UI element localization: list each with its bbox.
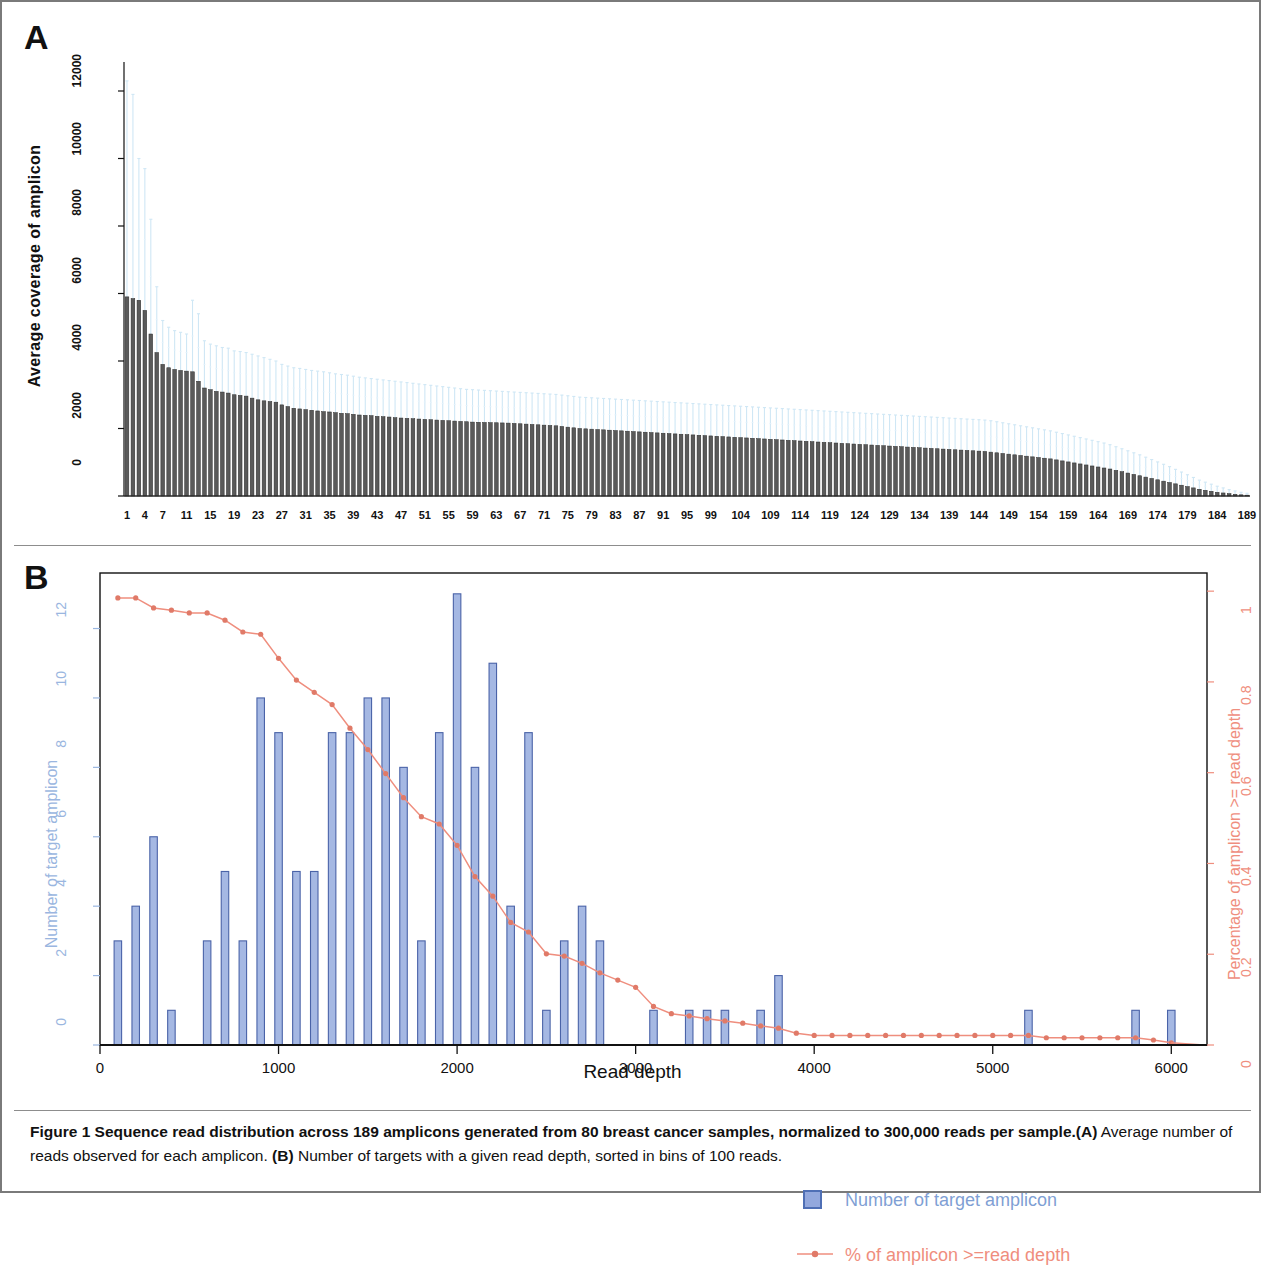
panel-a-y-tick: 2000 (70, 392, 84, 462)
panel-b-right-y-tick: 1 (1238, 564, 1254, 614)
panel-a-y-tick: 0 (70, 459, 84, 529)
panel-b-left-y-tick: 8 (53, 740, 69, 790)
panel-b-left-y-tick: 4 (53, 879, 69, 929)
panel-a-y-tick: 6000 (70, 257, 84, 327)
panel-b-left-y-tick: 6 (53, 810, 69, 860)
caption-title: Figure 1 Sequence read distribution acro… (30, 1123, 1076, 1140)
panel-b-bars (114, 594, 1175, 1045)
panel-a: A Average coverage of amplicon 020004000… (2, 2, 1261, 545)
panel-b-right-y-tick: 0.2 (1238, 927, 1254, 977)
caption-b-text: Number of targets with a given read dept… (294, 1147, 783, 1164)
legend-bar-label: Number of target amplicon (845, 1190, 1057, 1211)
panel-b-left-y-tick: 10 (53, 671, 69, 721)
legend-bar-swatch-icon (803, 1190, 822, 1209)
panel-b-right-y-tick: 0.4 (1238, 836, 1254, 886)
panel-a-y-tick: 10000 (70, 122, 84, 192)
panel-b-right-y-tick: 0.6 (1238, 746, 1254, 796)
panel-b-left-y-tick: 2 (53, 949, 69, 999)
panel-b: B Number of target amplicon Percentage o… (2, 545, 1261, 1110)
legend-line-label: % of amplicon >=read depth (845, 1245, 1070, 1266)
panel-b-plot (2, 545, 1261, 1110)
panel-a-y-tick: 4000 (70, 324, 84, 394)
panel-b-right-y-tick: 0.8 (1238, 655, 1254, 705)
caption-a-tag: (A) (1076, 1123, 1098, 1140)
panel-a-plot (2, 2, 1261, 545)
caption-b-tag: (B) (272, 1147, 294, 1164)
panel-b-x-axis-title: Read depth (2, 1061, 1261, 1083)
panel-a-x-tick: 189 (1230, 509, 1261, 521)
panel-b-left-y-tick: 12 (53, 602, 69, 652)
legend-line-swatch-icon (797, 1245, 833, 1263)
figure-caption: Figure 1 Sequence read distribution acro… (30, 1120, 1240, 1168)
panel-a-y-tick: 8000 (70, 189, 84, 259)
caption-divider (14, 1110, 1251, 1111)
panel-b-line-markers (115, 595, 1174, 1045)
panel-a-y-tick: 12000 (70, 54, 84, 124)
